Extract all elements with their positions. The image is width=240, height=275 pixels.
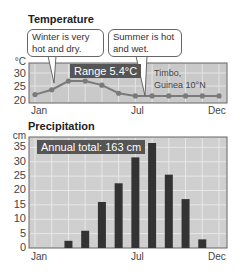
range-label: Range 5.4°C xyxy=(70,64,141,78)
precipitation-xtick-dec: Dec xyxy=(208,251,226,262)
location-line2: Guinea 10°N xyxy=(154,79,206,91)
callout-summer-line1: Summer is hot xyxy=(113,31,177,43)
precipitation-xtick-jul: Jul xyxy=(131,251,144,262)
temperature-ytick-25: 25 xyxy=(2,80,26,92)
precipitation-ytick-30: 30 xyxy=(2,155,26,167)
precipitation-ytick-5: 5 xyxy=(2,227,26,239)
location-label: Timbo, Guinea 10°N xyxy=(154,67,206,91)
callout-summer: Summer is hot and wet. xyxy=(108,29,182,57)
temperature-ytick-30: 30 xyxy=(2,67,26,79)
location-line1: Timbo, xyxy=(154,67,206,79)
precipitation-title: Precipitation xyxy=(28,120,95,132)
precipitation-ytick-10: 10 xyxy=(2,212,26,224)
precipitation-ytick-20: 20 xyxy=(2,183,26,195)
precipitation-ytick-25: 25 xyxy=(2,169,26,181)
temperature-xtick-jul: Jul xyxy=(131,105,144,116)
callout-winter: Winter is very hot and dry. xyxy=(27,29,104,57)
temperature-ytick-20: 20 xyxy=(2,94,26,106)
precipitation-ytick-35: 35 xyxy=(2,140,26,152)
temperature-unit-label: °C xyxy=(2,56,26,67)
precipitation-xtick-jan: Jan xyxy=(31,251,47,262)
temperature-xtick-dec: Dec xyxy=(208,105,226,116)
precipitation-ytick-15: 15 xyxy=(2,198,26,210)
callout-summer-line2: and wet. xyxy=(113,43,177,55)
temperature-xtick-jan: Jan xyxy=(31,105,47,116)
callout-winter-line2: hot and dry. xyxy=(32,43,99,55)
precipitation-ytick-0: 0 xyxy=(2,241,26,253)
annual-total-label: Annual total: 163 cm xyxy=(37,140,145,154)
callout-winter-line1: Winter is very xyxy=(32,31,99,43)
